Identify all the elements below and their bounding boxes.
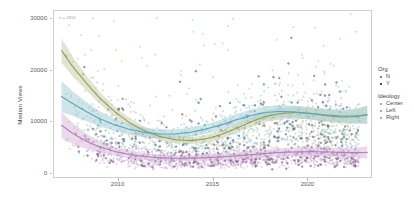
data-point [286, 157, 288, 159]
data-point [313, 160, 315, 162]
data-point [78, 151, 80, 153]
data-point [260, 141, 262, 143]
data-point [262, 104, 264, 106]
data-point [107, 160, 109, 162]
data-point [127, 163, 129, 165]
data-point [295, 120, 297, 122]
data-point [225, 164, 227, 166]
data-point [243, 135, 245, 137]
data-point [115, 138, 117, 140]
data-point [145, 138, 147, 140]
data-point [330, 163, 332, 165]
data-point [264, 126, 266, 128]
data-point [252, 135, 254, 137]
data-point [116, 158, 118, 160]
legend-item[interactable]: N [378, 74, 414, 81]
data-point [221, 116, 223, 118]
data-point [207, 164, 209, 166]
data-point [103, 155, 105, 157]
data-point [283, 101, 285, 103]
data-point [324, 71, 326, 73]
data-point [351, 133, 353, 135]
data-point [301, 166, 303, 168]
data-point [323, 45, 325, 47]
data-point [121, 134, 123, 136]
data-point [197, 147, 199, 149]
data-point [331, 125, 333, 127]
data-point [243, 141, 245, 143]
legend-item-label: Y [386, 81, 390, 87]
data-point [312, 105, 314, 107]
data-point [327, 133, 329, 135]
data-point [346, 123, 348, 125]
data-point [324, 95, 326, 97]
data-point [301, 134, 303, 136]
data-point [189, 119, 191, 121]
data-point [173, 150, 175, 152]
data-point [198, 151, 200, 153]
data-point [328, 94, 330, 96]
data-point [350, 13, 352, 15]
data-point [314, 27, 316, 29]
data-point [274, 147, 276, 149]
data-point [265, 161, 267, 163]
data-point [237, 145, 239, 147]
data-point [288, 158, 290, 160]
data-point [294, 126, 296, 128]
data-point [220, 167, 222, 169]
data-point [227, 137, 229, 139]
data-point [312, 127, 314, 129]
data-point [135, 141, 137, 143]
data-point [129, 136, 131, 138]
data-point [274, 122, 276, 124]
data-point [91, 158, 93, 160]
data-point [341, 159, 343, 161]
data-point [181, 161, 183, 163]
data-point [267, 87, 269, 89]
data-point [342, 131, 344, 133]
data-point [84, 54, 86, 56]
data-point [254, 104, 256, 106]
data-point [222, 145, 224, 147]
data-point [198, 102, 200, 104]
data-point [208, 142, 210, 144]
data-point [332, 162, 334, 164]
data-point [135, 119, 137, 121]
data-point [326, 125, 328, 127]
data-point [276, 39, 278, 41]
data-point [318, 143, 320, 145]
data-point [358, 126, 360, 128]
data-point [235, 141, 237, 143]
data-point [175, 152, 177, 154]
legend-item[interactable]: Center [378, 100, 414, 107]
data-point [237, 142, 239, 144]
data-point [320, 133, 322, 135]
data-point [326, 161, 328, 163]
data-point [267, 144, 269, 146]
legend-item[interactable]: Right [378, 114, 414, 121]
data-point [307, 100, 309, 102]
data-point [240, 109, 242, 111]
data-point [113, 20, 115, 22]
data-point [105, 136, 107, 138]
data-point [233, 165, 235, 167]
data-point [269, 142, 271, 144]
data-point [324, 84, 326, 86]
legend-item[interactable]: Y [378, 81, 414, 88]
data-point [247, 147, 249, 149]
data-point [201, 166, 203, 168]
data-point [159, 120, 161, 122]
data-point [181, 113, 183, 115]
data-point [257, 149, 259, 151]
data-point [155, 163, 157, 165]
data-point [145, 161, 147, 163]
data-point [255, 136, 257, 138]
data-point [132, 149, 134, 151]
data-point [192, 150, 194, 152]
data-point [306, 129, 308, 131]
data-point [227, 148, 229, 150]
data-point [168, 145, 170, 147]
data-point [305, 126, 307, 128]
data-point [106, 139, 108, 141]
data-point [195, 70, 197, 72]
